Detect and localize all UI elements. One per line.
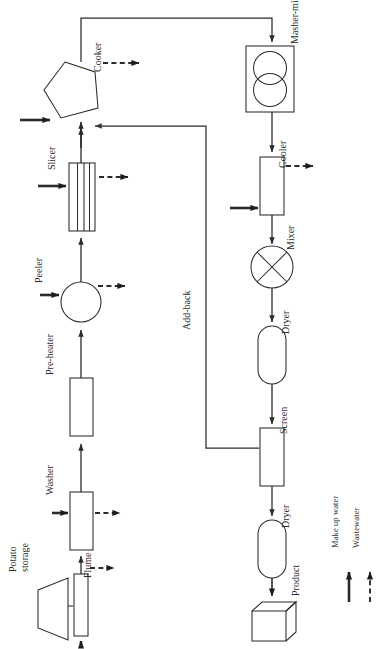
- label-slicer: Slicer: [46, 147, 57, 170]
- node-dryer-1: [258, 326, 286, 384]
- node-screen: [260, 428, 284, 486]
- node-dryer-2: [258, 520, 286, 578]
- process-flow-diagram: [0, 0, 384, 649]
- label-pre-heater: Pre-heater: [44, 334, 55, 375]
- node-masher-mixer: [246, 46, 294, 112]
- node-cooker: [44, 62, 98, 118]
- label-dryer-2: Dryer: [280, 505, 291, 528]
- node-potato-storage: [38, 578, 68, 640]
- legend-label-wastewater: Wastewater: [351, 508, 361, 548]
- node-product: [252, 602, 296, 641]
- label-flume: Flume: [82, 552, 93, 578]
- label-masher-mixer: Masher-mixer: [289, 0, 300, 44]
- legend-label-make-up-water: Make up water: [330, 496, 340, 548]
- label-mixer: Mixer: [285, 226, 296, 250]
- node-mixer: [251, 246, 293, 288]
- label-washer: Washer: [44, 465, 55, 495]
- stream-add-back-recycle: [95, 126, 259, 448]
- label-dryer-1: Dryer: [280, 311, 291, 334]
- label-screen: Screen: [278, 407, 289, 434]
- label-product: Product: [290, 565, 301, 596]
- node-pre-heater: [70, 378, 93, 436]
- label-potato-storage-line1: Potato: [7, 546, 18, 572]
- node-flume: [74, 574, 88, 636]
- node-washer: [70, 492, 93, 550]
- node-slicer: [69, 163, 95, 231]
- label-add-back: Add-back: [181, 291, 192, 330]
- node-peeler: [61, 282, 101, 322]
- legend: [349, 572, 370, 602]
- stream-cooker-to-masher-mixer: [81, 18, 272, 62]
- label-potato-storage-line2: storage: [19, 543, 30, 572]
- label-cooler: Cooler: [277, 141, 288, 168]
- label-peeler: Peeler: [33, 258, 44, 283]
- label-cooker: Cooker: [92, 43, 103, 72]
